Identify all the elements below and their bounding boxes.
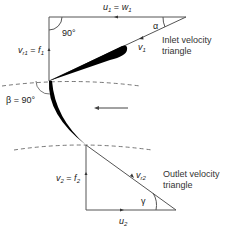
outlet-vertical-label: v2 = f2 [56,173,80,186]
inlet-top-label: u1 = w1 [103,2,131,15]
alpha-label: α [153,21,158,31]
outlet-arrows [85,172,135,212]
inlet-vertical-label: vr1 = f1 [18,45,44,58]
beta-label: β = 90° [6,95,35,105]
outlet-triangle-title: Outlet velocity triangle [163,169,220,191]
flow-direction-arrow [94,106,128,110]
inlet-triangle-title: Inlet velocity triangle [162,35,212,57]
blade [49,46,127,146]
dashed-rotor-circles [2,82,152,151]
inlet-right-angle-label: 90° [62,28,76,38]
outlet-bottom-label: u2 [119,216,127,229]
inlet-hypotenuse-label: v1 [138,42,146,55]
outlet-hypotenuse-label: vr2 [136,170,146,183]
beta-arc [36,81,50,94]
gamma-label: γ [141,196,146,206]
